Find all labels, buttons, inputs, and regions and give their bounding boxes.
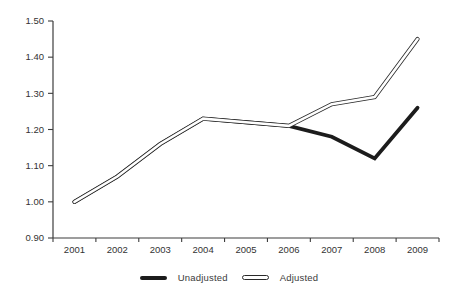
x-tick-label: 2001 — [64, 244, 85, 255]
x-tick-label: 2009 — [407, 244, 428, 255]
x-tick-label: 2008 — [364, 244, 385, 255]
y-tick-label: 1.40 — [26, 51, 45, 62]
legend-label-unadjusted: Unadjusted — [178, 272, 228, 283]
series-line-adjusted-border — [74, 39, 417, 202]
x-tick-label: 2006 — [278, 244, 299, 255]
x-tick-label: 2004 — [193, 244, 214, 255]
legend-item-adjusted: Adjusted — [242, 272, 319, 283]
y-tick-label: 1.20 — [26, 124, 45, 135]
x-tick-label: 2007 — [321, 244, 342, 255]
adjusted-line-swatch — [242, 275, 269, 280]
chart-container: 0.901.001.101.201.301.401.50200120022003… — [0, 0, 458, 301]
x-tick-label: 2003 — [150, 244, 171, 255]
y-tick-label: 1.30 — [26, 88, 45, 99]
chart-svg: 0.901.001.101.201.301.401.50200120022003… — [0, 0, 458, 301]
legend: Unadjusted Adjusted — [0, 272, 458, 283]
y-tick-label: 1.50 — [26, 15, 45, 26]
unadjusted-line-swatch — [140, 276, 167, 280]
y-tick-label: 0.90 — [26, 232, 45, 243]
legend-item-unadjusted: Unadjusted — [140, 272, 228, 283]
y-tick-label: 1.10 — [26, 160, 45, 171]
y-tick-label: 1.00 — [26, 196, 45, 207]
x-tick-label: 2005 — [235, 244, 256, 255]
legend-label-adjusted: Adjusted — [280, 272, 319, 283]
x-tick-label: 2002 — [107, 244, 128, 255]
